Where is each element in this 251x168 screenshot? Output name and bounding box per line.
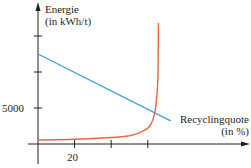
- x-axis-label-line2: (in %): [175, 125, 249, 137]
- chart: Energie (in kWh/t) Recyclingquote (in %)…: [0, 0, 251, 168]
- series: [38, 23, 171, 140]
- y-tick-label-5000: 5000: [2, 102, 24, 114]
- y-axis-arrow-icon: [36, 2, 41, 11]
- x-axis-label-line1: Recyclingquote: [175, 113, 249, 125]
- x-axis-arrow-icon: [241, 142, 250, 147]
- x-tick-label-20: 20: [67, 151, 78, 163]
- x-axis-label: Recyclingquote (in %): [175, 113, 249, 137]
- y-axis-label-line2: (in kWh/t): [45, 15, 91, 27]
- blue-line-series: [38, 54, 171, 121]
- orange-curve-series: [38, 23, 158, 140]
- y-axis-label-line1: Energie: [45, 3, 91, 15]
- chart-svg: [0, 0, 251, 168]
- y-axis-label: Energie (in kWh/t): [45, 3, 91, 27]
